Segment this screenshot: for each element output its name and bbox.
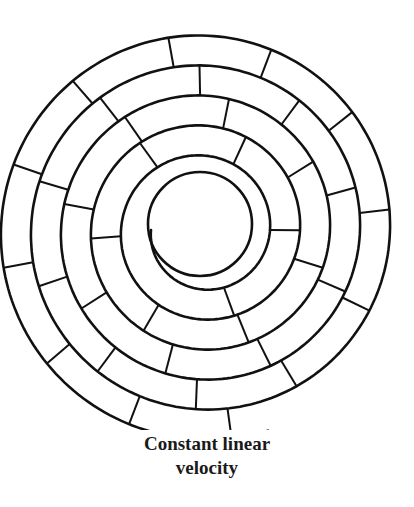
sector-divider <box>4 262 33 268</box>
sector-divider <box>140 143 158 167</box>
sector-divider <box>281 361 297 387</box>
sector-divider <box>360 210 390 213</box>
inner-hub-circle <box>148 172 252 276</box>
sector-divider <box>318 280 346 292</box>
spiral-line <box>1 36 390 431</box>
sector-divider <box>125 117 142 142</box>
sector-divider <box>228 409 232 431</box>
sector-divider <box>329 112 353 131</box>
sector-divider <box>47 344 70 363</box>
sector-divider <box>342 298 369 311</box>
spiral-track <box>1 36 390 431</box>
sector-divider <box>196 379 197 409</box>
clv-spiral-diagram <box>0 0 414 430</box>
figure-caption: Constant linear velocity <box>0 432 414 480</box>
sector-divider <box>200 65 201 95</box>
sector-divider <box>233 137 246 164</box>
sector-divider <box>144 305 159 331</box>
sector-divider <box>81 292 106 308</box>
sector-divider <box>294 259 323 268</box>
sector-divider <box>223 99 229 128</box>
sector-divider <box>73 81 93 104</box>
sector-divider <box>257 339 270 366</box>
sector-divider <box>327 188 356 196</box>
sector-divider <box>237 315 248 343</box>
sector-divider <box>288 162 314 178</box>
sector-divider <box>281 100 299 124</box>
caption-line-2: velocity <box>0 456 414 480</box>
sector-divider <box>39 277 67 287</box>
sector-divider <box>261 50 272 78</box>
sector-divider <box>129 396 140 424</box>
sector-divider <box>165 344 173 373</box>
sector-divider <box>224 288 234 316</box>
sector-divider <box>168 38 173 68</box>
sector-divider <box>40 181 69 190</box>
sector-divider <box>14 165 42 175</box>
sector-divider <box>64 204 94 210</box>
sector-divider <box>100 98 119 122</box>
caption-line-1: Constant linear <box>0 432 414 456</box>
sector-divider <box>98 347 116 371</box>
sector-divider <box>91 236 121 238</box>
